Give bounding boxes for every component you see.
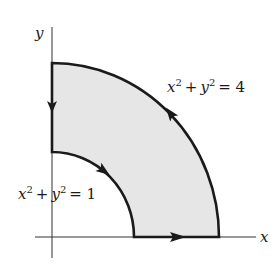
- outer-curve-label: x2+y2= 4: [167, 77, 245, 96]
- y-axis-label: y: [34, 24, 44, 42]
- inner-curve-label: x2+y2= 1: [18, 184, 96, 203]
- diagram-canvas: y x x2+y2= 4 x2+y2= 1: [0, 0, 277, 270]
- x-axis-label: x: [260, 228, 269, 246]
